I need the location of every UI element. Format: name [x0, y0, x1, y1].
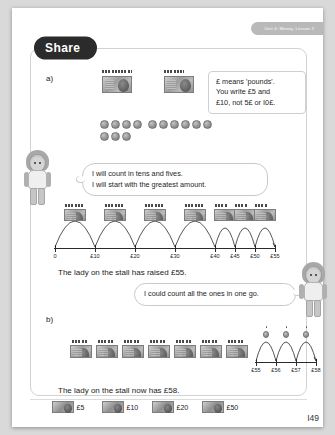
one-pound-coin [303, 331, 310, 338]
bubble-left-line-2: I will start with the greatest amount. [92, 180, 258, 191]
banknote-five [254, 209, 276, 221]
one-pound-coin [283, 331, 290, 338]
banknote [226, 345, 248, 358]
jump-arc [175, 221, 215, 247]
speech-bubble-left-tail [76, 176, 85, 183]
one-pound-coin [159, 120, 168, 129]
note-stack-marks [65, 204, 83, 207]
leg-right [38, 188, 45, 205]
tick-label: £58 [311, 367, 320, 373]
note-stack-marks [72, 340, 88, 343]
part-a-label: a) [46, 74, 53, 83]
note-stack-marks-fives [164, 70, 184, 73]
note-stack-marks [215, 204, 228, 207]
ten-pound-note-group [102, 76, 132, 93]
banknote-ten [144, 209, 166, 221]
banknote [174, 345, 196, 358]
tick-label: £56 [271, 367, 280, 373]
note-stack-marks [228, 340, 244, 343]
banknote-ten [184, 209, 206, 221]
note-stack-marks [202, 340, 218, 343]
one-pound-coin [148, 120, 157, 129]
tick-label: £40 [210, 253, 219, 259]
page-number: I49 [307, 413, 319, 423]
footer-key-label: £5 [77, 404, 85, 411]
tick-label: £30 [170, 253, 179, 259]
banknote [200, 345, 222, 358]
one-pound-coin [203, 120, 212, 129]
tick-label: £55 [270, 253, 279, 259]
leg-right [314, 300, 321, 317]
banknote [96, 345, 118, 358]
count-dot [266, 326, 268, 328]
info-line-2: You write £5 and [216, 87, 298, 97]
bubble-right-line-1: I could count all the ones in one go. [144, 289, 286, 300]
count-dot [306, 326, 308, 328]
one-pound-coin [100, 120, 109, 129]
banknote-ten [64, 209, 86, 221]
five-pound-note-group [164, 76, 194, 93]
tick-label: £50 [250, 253, 259, 259]
jump-arc [55, 221, 95, 247]
footer-key-item: £20 [152, 401, 188, 413]
jump-arc [215, 228, 235, 247]
pounds-info-box: £ means 'pounds'. You write £5 and £10, … [208, 71, 306, 114]
banknote [70, 345, 92, 358]
unit-lesson-tab: Unit 4: Money, Lesson 2 [251, 22, 323, 35]
info-line-1: £ means 'pounds'. [216, 77, 298, 87]
jump-arc [296, 342, 316, 361]
jump-arc [235, 228, 255, 247]
note-stack-marks [150, 340, 166, 343]
note-stack-marks [176, 340, 192, 343]
note-stack-marks [124, 340, 140, 343]
banknote-icon [202, 401, 224, 413]
one-pound-coin [263, 331, 270, 338]
one-pound-coin [111, 132, 120, 141]
numberline-a: 0£10£20£30£40£45£50£55 [54, 206, 276, 261]
tick-label: £20 [130, 253, 139, 259]
speech-bubble-left: I will count in tens and fives. I will s… [82, 163, 268, 196]
footer-key-label: £20 [177, 404, 189, 411]
one-pound-coin [100, 132, 109, 141]
note-stack-marks [185, 204, 203, 207]
one-pound-coin [170, 120, 179, 129]
tick-label: £10 [90, 253, 99, 259]
banknote [148, 345, 170, 358]
character-girl-right [298, 258, 330, 316]
workbook-page: Unit 4: Money, Lesson 2 Share a) £ means… [12, 8, 323, 427]
character-girl-left [22, 146, 54, 208]
tick-label: £55 [251, 367, 260, 373]
banknote-icon [102, 401, 124, 413]
footer-key-label: £10 [127, 404, 139, 411]
note-stack-marks [255, 204, 268, 207]
jump-arc [256, 342, 276, 361]
one-pound-coin [122, 132, 131, 141]
tick-label: 0 [53, 253, 56, 259]
jump-arc [95, 221, 135, 247]
body [28, 170, 47, 189]
footer-key-label: £50 [227, 404, 239, 411]
banknote-icon [152, 401, 174, 413]
count-dot [286, 326, 288, 328]
leg-left [306, 300, 313, 317]
numberline-b: £55£56£57£58 [255, 326, 317, 374]
bubble-left-line-1: I will count in tens and fives. [92, 169, 258, 180]
part-b-label: b) [46, 315, 53, 324]
face [31, 157, 44, 171]
tick-label: £45 [230, 253, 239, 259]
money-key-footer: £5£10£20£50 [30, 399, 307, 419]
banknote-five [214, 209, 236, 221]
note-stack-marks [105, 204, 123, 207]
footer-key-item: £10 [102, 401, 138, 413]
tick-label: £57 [291, 367, 300, 373]
note-stack-marks [235, 204, 248, 207]
sentence-a-result: The lady on the stall has raised £55. [58, 268, 187, 277]
note-stack-marks [98, 340, 114, 343]
one-pound-coin [111, 120, 120, 129]
banknote-five [234, 209, 256, 221]
footer-key-item: £50 [202, 401, 238, 413]
info-line-3: £10, not 5£ or I0£. [216, 98, 298, 108]
banknote [122, 345, 144, 358]
one-pound-coin [122, 120, 131, 129]
leg-left [30, 188, 37, 205]
